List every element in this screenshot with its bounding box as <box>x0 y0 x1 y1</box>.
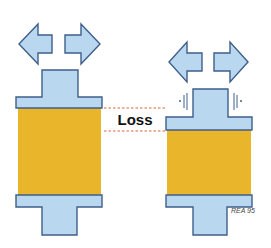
arrow-left-icon <box>169 42 202 82</box>
arrow-left-icon <box>19 24 52 64</box>
body-block <box>18 108 101 196</box>
watermark: REA 95 <box>231 207 255 214</box>
vibration-left-icon <box>179 93 187 110</box>
arrow-right-icon <box>214 42 248 82</box>
bottom-shaft <box>166 195 252 235</box>
bottom-shaft <box>16 195 102 235</box>
arrow-right-icon <box>65 24 100 64</box>
body-block <box>167 130 251 196</box>
left-figure <box>16 24 102 235</box>
top-shaft <box>166 89 252 130</box>
loss-label: Loss <box>117 111 152 128</box>
loss-diagram: Loss REA 95 <box>0 0 271 248</box>
top-shaft <box>16 70 102 108</box>
vibration-right-icon <box>234 93 242 110</box>
